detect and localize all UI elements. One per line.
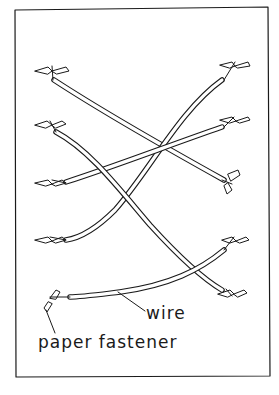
wire-a <box>54 80 224 180</box>
wire-label: wire <box>146 305 186 322</box>
wire-leader-line <box>118 292 145 311</box>
paper-fastener-icon <box>35 62 250 312</box>
paper-fastener-label: paper fastener <box>38 334 177 351</box>
fastener-leader-line <box>46 310 55 333</box>
diagram-canvas: wire paper fastener <box>0 0 279 395</box>
